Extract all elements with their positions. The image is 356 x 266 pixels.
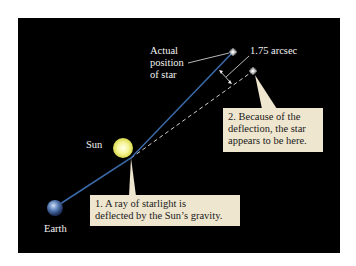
callout-2-pointer (255, 75, 277, 109)
apparent-star-icon (249, 67, 257, 75)
actual-position-line-3: of star (150, 69, 184, 81)
angle-label-leader (226, 56, 249, 77)
callout-2-line-1: 2. Because of the (228, 111, 318, 123)
earth-icon (47, 200, 63, 216)
actual-position-line-1: Actual (150, 45, 184, 57)
callout-1-pointer (129, 158, 136, 196)
deflection-angle-label: 1.75 arcsec (250, 45, 297, 57)
earth-label: Earth (44, 223, 67, 235)
callout-1-line-2: deflected by the Sun’s gravity. (95, 210, 235, 222)
actual-position-line-2: position (150, 57, 184, 69)
sun-icon (113, 138, 133, 158)
callout-box-2: 2. Because of the deflection, the star a… (223, 108, 323, 152)
deflection-angle-arrow (219, 70, 232, 84)
light-ray-path (57, 52, 233, 206)
callout-2-line-2: deflection, the star (228, 123, 318, 135)
callout-2-line-3: appears to be here. (228, 135, 318, 147)
actual-star-icon (229, 48, 237, 56)
callout-1-line-1: 1. A ray of starlight is (95, 198, 235, 210)
actual-position-label: Actual position of star (150, 45, 184, 81)
sun-label: Sun (86, 139, 102, 151)
callout-box-1: 1. A ray of starlight is deflected by th… (90, 195, 240, 226)
